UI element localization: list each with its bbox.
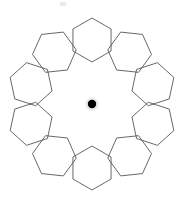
smudge-top-mark bbox=[60, 2, 67, 6]
hexagon-ring-diagram bbox=[0, 0, 187, 198]
artifact-layer bbox=[60, 2, 67, 6]
figure-canvas bbox=[0, 0, 187, 198]
center-point-group bbox=[85, 97, 98, 110]
center-point-dot bbox=[88, 100, 96, 108]
